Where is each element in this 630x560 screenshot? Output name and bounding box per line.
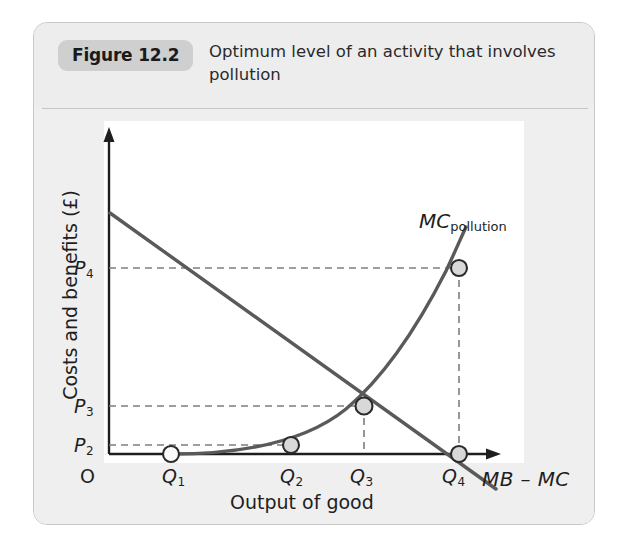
mc-label-subscript: pollution <box>450 219 507 234</box>
chart-graphic <box>34 109 595 525</box>
p2-subscript: 2 <box>85 444 93 458</box>
x-tick-label-q2: Q2 <box>280 465 303 487</box>
marker-q3-p3 <box>356 398 373 415</box>
marker-q1 <box>163 446 179 462</box>
marker-q4-axis <box>451 446 467 462</box>
y-tick-label-p4: P4 <box>74 257 94 279</box>
marker-q2-p2 <box>283 437 299 453</box>
p3-subscript: 3 <box>85 405 93 419</box>
x-tick-label-q4: Q4 <box>442 465 465 487</box>
q1-letter: Q <box>162 465 177 487</box>
x-tick-label-q1: Q1 <box>162 465 185 487</box>
q1-subscript: 1 <box>177 475 185 489</box>
q4-letter: Q <box>442 465 457 487</box>
q3-letter: Q <box>350 465 365 487</box>
y-tick-label-p3: P3 <box>74 395 94 417</box>
figure-card: Figure 12.2 Optimum level of an activity… <box>33 22 595 525</box>
q2-subscript: 2 <box>295 475 303 489</box>
plot-panel: Costs and benefits (£) Output of good O … <box>34 109 594 525</box>
mc-pollution-curve <box>171 227 466 454</box>
x-axis-title: Output of good <box>230 491 374 513</box>
figure-number-badge: Figure 12.2 <box>58 40 193 71</box>
q4-subscript: 4 <box>457 475 465 489</box>
origin-label: O <box>80 465 95 487</box>
mc-pollution-label: MCpollution <box>419 209 507 233</box>
q2-letter: Q <box>280 465 295 487</box>
q3-subscript: 3 <box>365 475 373 489</box>
mc-label-main: MC <box>419 209 450 233</box>
marker-q4-p4 <box>451 260 467 276</box>
x-tick-label-q3: Q3 <box>350 465 373 487</box>
p4-subscript: 4 <box>85 267 93 281</box>
y-axis-arrowhead <box>104 127 115 142</box>
x-axis-arrowhead <box>486 449 501 460</box>
mb-minus-mc-label: MB – MC <box>482 467 570 491</box>
y-axis-title: Costs and benefits (£) <box>59 165 81 425</box>
figure-caption: Optimum level of an activity that involv… <box>209 40 569 87</box>
p4-letter: P <box>74 257 85 279</box>
p3-letter: P <box>74 395 85 417</box>
y-tick-label-p2: P2 <box>74 434 94 456</box>
p2-letter: P <box>74 434 85 456</box>
